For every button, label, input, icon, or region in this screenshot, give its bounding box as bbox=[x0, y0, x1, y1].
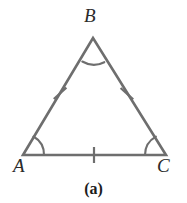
vertex-label-c: C bbox=[157, 156, 170, 175]
angle-arc-a bbox=[34, 137, 45, 156]
angle-arc-b bbox=[82, 62, 104, 65]
figure-caption: (a) bbox=[0, 181, 187, 197]
angle-arc-c bbox=[145, 137, 156, 155]
side-tick-mark-ab bbox=[54, 88, 67, 99]
vertex-label-b: B bbox=[84, 6, 96, 25]
triangle-outline bbox=[23, 38, 166, 155]
geometry-figure: B A C (a) bbox=[0, 0, 187, 203]
vertex-label-a: A bbox=[13, 156, 25, 175]
side-tick-mark-bc bbox=[121, 88, 134, 99]
